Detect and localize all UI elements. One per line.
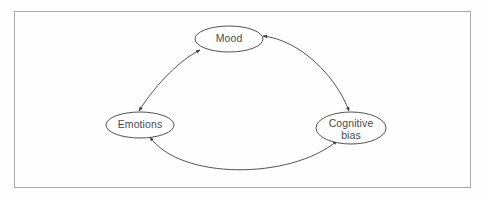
edge-emotions-cognitive-bias <box>150 137 337 170</box>
edge-mood-emotions <box>139 50 200 111</box>
node-label-mood: Mood <box>195 33 263 45</box>
edge-group <box>139 36 349 170</box>
node-label-cognitive-bias: Cognitive bias <box>316 118 386 141</box>
edge-cognitive-bias-mood <box>263 36 349 111</box>
cycle-diagram-canvas <box>0 0 488 200</box>
node-label-emotions: Emotions <box>106 119 174 131</box>
figure-root: Mood Emotions Cognitive bias <box>0 0 488 200</box>
